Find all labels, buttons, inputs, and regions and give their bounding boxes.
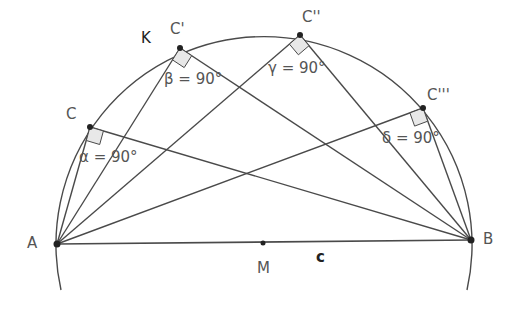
point-label-a: A	[27, 236, 37, 251]
point-c-prime	[177, 45, 183, 51]
point-label-c-double-prime: C''	[302, 10, 321, 25]
point-label-c-triple-prime: C'''	[427, 88, 450, 103]
point-c-triple-prime	[420, 105, 426, 111]
circle-label-k: K	[141, 31, 151, 46]
angle-label-gamma: γ = 90°	[268, 61, 326, 76]
point-c	[87, 124, 93, 130]
point-b	[468, 237, 475, 244]
right-angle-c3	[410, 108, 428, 126]
angle-label-alpha: α = 90°	[79, 150, 138, 165]
angle-label-delta: δ = 90°	[382, 131, 440, 146]
angle-label-beta: β = 90°	[164, 72, 222, 87]
right-angle-markers	[86, 35, 427, 145]
point-label-m: M	[257, 261, 270, 276]
segment-label-c: c	[316, 250, 325, 265]
point-label-b: B	[483, 232, 493, 247]
point-a	[54, 241, 61, 248]
point-label-c: C	[66, 107, 76, 122]
point-m	[261, 241, 266, 246]
point-label-c-prime: C'	[170, 22, 185, 37]
thales-diagram: K A B M c C C' C'' C''' α = 90° β = 90° …	[0, 0, 521, 315]
point-c-double-prime	[297, 32, 303, 38]
